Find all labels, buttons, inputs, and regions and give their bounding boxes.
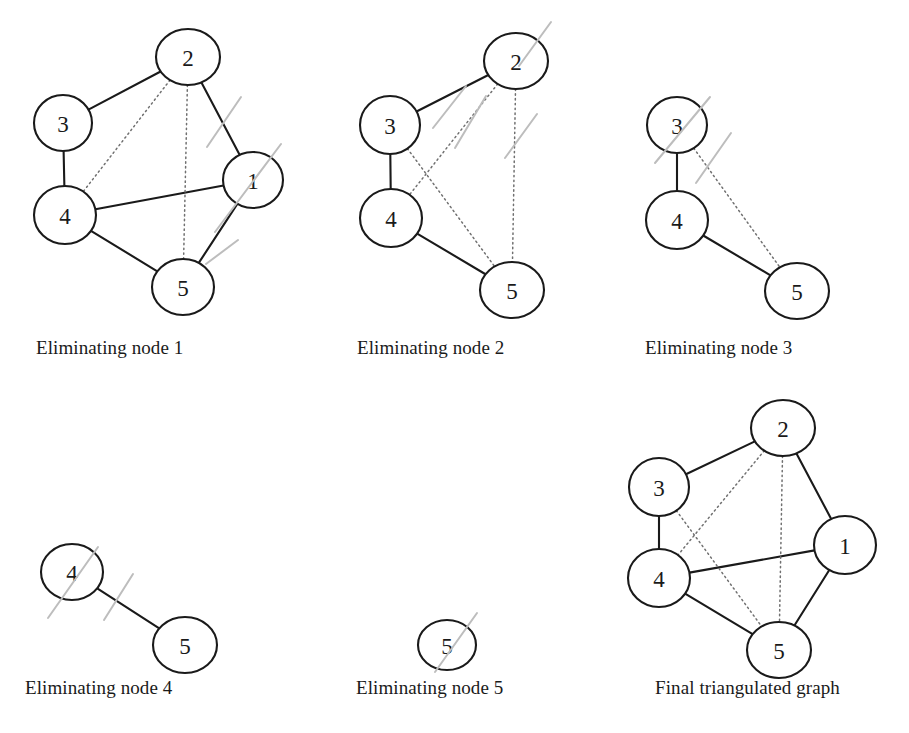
panel-6-caption: Final triangulated graph — [655, 677, 840, 699]
node-4-label: 4 — [66, 561, 78, 586]
node-4[interactable]: 4 — [34, 186, 96, 244]
node-3[interactable]: 3 — [629, 458, 689, 516]
fill-in-edge-2-5 — [512, 89, 515, 262]
panel-3-caption: Eliminating node 3 — [645, 337, 792, 359]
node-5-label: 5 — [179, 634, 191, 659]
edge-4-5 — [417, 234, 485, 275]
fill-in-edge-2-4 — [678, 451, 764, 555]
panel-6: 23145 — [628, 400, 876, 678]
panel-2: 2345 — [360, 22, 551, 318]
node-2[interactable]: 2 — [156, 29, 220, 85]
panel-4: 45 — [41, 544, 217, 673]
edge-4-1 — [95, 185, 223, 209]
panel-3: 345 — [646, 97, 829, 319]
panel-4-caption: Eliminating node 4 — [25, 677, 172, 699]
panel-2-nodes: 2345 — [360, 33, 548, 318]
figure-canvas: 23145234534545523145 Eliminating node 1E… — [0, 0, 909, 733]
edge-2-1 — [201, 82, 239, 154]
fill-in-edge-2-5 — [780, 456, 783, 622]
node-5[interactable]: 5 — [480, 262, 544, 318]
node-5[interactable]: 5 — [152, 259, 214, 315]
node-5-label: 5 — [773, 639, 785, 664]
node-4[interactable]: 4 — [360, 189, 422, 247]
node-3[interactable]: 3 — [360, 96, 420, 154]
panel-1-caption: Eliminating node 1 — [36, 337, 183, 359]
edge-2-3 — [417, 75, 489, 111]
panel-4-edges — [97, 588, 159, 628]
edge-4-5 — [97, 588, 159, 628]
node-2[interactable]: 2 — [484, 33, 548, 89]
node-2[interactable]: 2 — [751, 400, 815, 456]
node-4[interactable]: 4 — [628, 549, 690, 607]
node-5[interactable]: 5 — [747, 622, 811, 678]
node-5[interactable]: 5 — [153, 617, 217, 673]
elimination-strike-2 — [433, 86, 466, 128]
node-1-label: 1 — [839, 534, 851, 559]
edge-2-3 — [88, 71, 160, 109]
node-2-label: 2 — [777, 417, 789, 442]
node-3-label: 3 — [57, 112, 69, 137]
edge-4-5 — [703, 236, 770, 276]
edge-2-1 — [796, 453, 831, 519]
panel-3-nodes: 345 — [646, 97, 829, 319]
edge-3-4 — [64, 151, 65, 186]
node-4-label: 4 — [671, 209, 683, 234]
elimination-strike-3 — [455, 96, 486, 148]
node-2-label: 2 — [510, 50, 522, 75]
node-3-label: 3 — [671, 114, 683, 139]
node-4-label: 4 — [385, 207, 397, 232]
node-5[interactable]: 5 — [765, 263, 829, 319]
edge-1-5 — [794, 570, 829, 625]
graph-figure-svg: 23145234534545523145 — [0, 0, 909, 733]
fill-in-edge-2-4 — [83, 80, 170, 191]
node-5-label: 5 — [506, 279, 518, 304]
node-3-label: 3 — [653, 476, 665, 501]
node-1[interactable]: 1 — [814, 516, 876, 574]
node-5-label: 5 — [177, 276, 189, 301]
fill-in-edge-2-5 — [184, 85, 188, 259]
node-5-label: 5 — [791, 280, 803, 305]
panel-2-caption: Eliminating node 2 — [357, 337, 504, 359]
edge-2-3 — [686, 441, 755, 474]
panel-5-caption: Eliminating node 5 — [356, 677, 503, 699]
panel-1: 23145 — [34, 29, 283, 315]
node-4-label: 4 — [653, 567, 665, 592]
node-4-label: 4 — [59, 204, 71, 229]
node-3-label: 3 — [384, 114, 396, 139]
node-2-label: 2 — [182, 46, 194, 71]
panel-5: 5 — [418, 613, 477, 672]
elimination-strike-4 — [505, 114, 537, 158]
node-3[interactable]: 3 — [647, 97, 707, 153]
elimination-strike-2 — [104, 574, 133, 620]
node-4[interactable]: 4 — [646, 191, 708, 249]
panel-1-edges — [64, 71, 240, 271]
node-3[interactable]: 3 — [34, 95, 92, 151]
edge-4-5 — [91, 231, 157, 271]
